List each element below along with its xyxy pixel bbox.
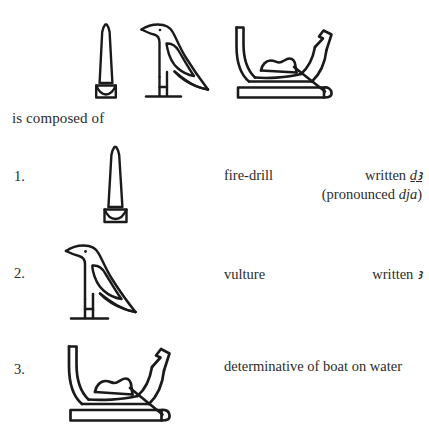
boat-on-water-glyph [228,22,338,102]
entry-1-transliteration: written ḏꜣ [241,166,422,185]
entry-3-number: 3. [14,361,40,378]
entry-1-pronounced-value: dja [399,186,418,202]
composed-of-label: is composed of [12,110,104,127]
entry-1-pronounced-close: ) [417,186,422,202]
entry-1-written-value: ḏꜣ [410,167,422,183]
fire-drill-glyph [88,20,128,104]
headword-glyph-row [0,8,429,103]
entry-3-boat-on-water-glyph [60,341,178,427]
vulture-glyph [138,17,216,105]
entry-1-number: 1. [14,168,40,185]
entry-2-transliteration: written ꜣ [241,265,422,284]
entry-1-fire-drill-glyph [96,143,140,231]
entry-2-number: 2. [14,265,40,282]
entry-1-pronunciation: (pronounced dja) [241,185,422,204]
entry-3-gloss: determinative of boat on water [224,357,409,376]
entry-1-written-prefix: written [365,167,410,183]
entry-1-pronounced-open: (pronounced [322,186,399,202]
entry-2-written-value: ꜣ [417,266,422,282]
entry-2-vulture-glyph [62,238,146,326]
entry-2-written-prefix: written [372,266,417,282]
